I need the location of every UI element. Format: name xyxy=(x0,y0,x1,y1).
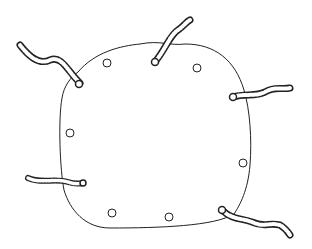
ropes xyxy=(20,20,290,235)
rope-left-bottom xyxy=(28,178,86,186)
illustration-canvas xyxy=(0,0,312,249)
sheet-illustration xyxy=(0,0,312,249)
rope-right xyxy=(230,88,291,101)
grommets xyxy=(66,59,247,221)
sheet-outline xyxy=(60,43,251,228)
rope-top-left xyxy=(20,45,83,88)
rope-bottom-right xyxy=(219,207,291,236)
